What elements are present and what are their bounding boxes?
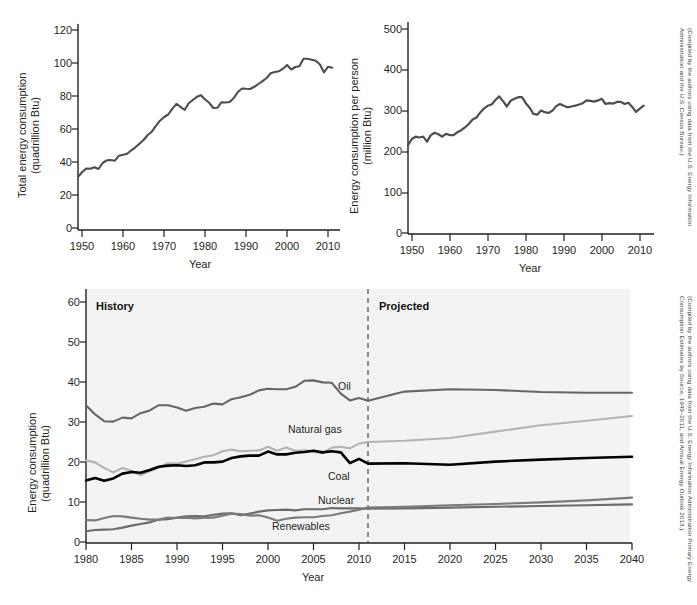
chart-energy-by-source: Energy consumption (quadrillion Btu) 60 … [0, 283, 660, 605]
series-label-coal: Coal [328, 470, 350, 482]
xtick-percap-2000: 2000 [582, 244, 622, 256]
xtick-total-1980: 1980 [185, 240, 225, 252]
chart-percap-xlabel: Year [500, 262, 560, 274]
source-note-bottom: (Compiled by the authors using data from… [664, 296, 694, 596]
xtick-sources-2020: 2020 [430, 553, 470, 565]
xtick-sources-1990: 1990 [157, 553, 197, 565]
xtick-total-2000: 2000 [267, 240, 307, 252]
xtick-percap-2010: 2010 [620, 244, 660, 256]
xtick-sources-2040: 2040 [612, 553, 652, 565]
label-history: History [96, 300, 134, 312]
xtick-sources-1995: 1995 [203, 553, 243, 565]
label-projected: Projected [379, 300, 429, 312]
xtick-total-1960: 1960 [103, 240, 143, 252]
xtick-sources-2025: 2025 [476, 553, 516, 565]
series-label-natural-gas: Natural gas [288, 423, 342, 435]
xtick-sources-2030: 2030 [521, 553, 561, 565]
xtick-percap-1980: 1980 [506, 244, 546, 256]
xtick-percap-1970: 1970 [468, 244, 508, 256]
chart-energy-per-person: Energy consumption per person (million B… [330, 0, 670, 280]
series-energy-per-person [408, 96, 644, 145]
source-note-top: (Compiled by the authors using data from… [668, 28, 694, 258]
chart-total-energy-consumption: Total energy consumption (quadrillion Bt… [0, 0, 348, 280]
chart-total-xlabel: Year [170, 258, 230, 270]
xtick-total-1950: 1950 [62, 240, 102, 252]
chart-sources-xlabel: Year [283, 571, 343, 583]
xtick-sources-2010: 2010 [339, 553, 379, 565]
xtick-percap-1960: 1960 [430, 244, 470, 256]
series-label-renewables: Renewables [272, 520, 330, 532]
xtick-sources-2015: 2015 [385, 553, 425, 565]
xtick-percap-1990: 1990 [544, 244, 584, 256]
xtick-sources-2000: 2000 [248, 553, 288, 565]
xtick-percap-1950: 1950 [392, 244, 432, 256]
xtick-sources-1985: 1985 [112, 553, 152, 565]
xtick-sources-2035: 2035 [567, 553, 607, 565]
xtick-total-1970: 1970 [144, 240, 184, 252]
series-total-energy [78, 59, 332, 177]
xtick-sources-1980: 1980 [66, 553, 106, 565]
xtick-sources-2005: 2005 [294, 553, 334, 565]
series-label-oil: Oil [338, 380, 351, 392]
series-label-nuclear: Nuclear [318, 494, 354, 506]
xtick-total-1990: 1990 [226, 240, 266, 252]
